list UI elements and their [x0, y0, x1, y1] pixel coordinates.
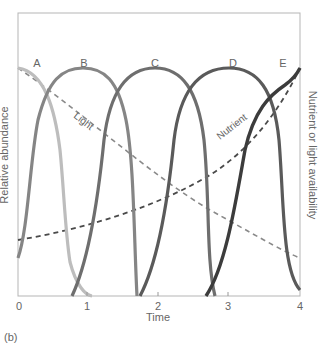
- label-d: D: [229, 57, 237, 69]
- y-axis-title-right: Nutrient or light availability: [307, 91, 319, 220]
- label-b: B: [80, 57, 87, 69]
- label-e: E: [279, 57, 286, 69]
- x-tick-label-1: 1: [84, 300, 90, 312]
- x-tick-label-3: 3: [225, 300, 231, 312]
- x-tick-label-0: 0: [16, 300, 22, 312]
- succession-chart: A B C D E Light Nutrient 0 1 2 3 4 Time …: [0, 0, 319, 344]
- y-axis-title-left: Relative abundance: [0, 106, 10, 203]
- x-axis-title: Time: [146, 311, 170, 323]
- x-tick-label-4: 4: [297, 300, 303, 312]
- label-c: C: [151, 57, 159, 69]
- panel-label: (b): [4, 331, 17, 343]
- label-a: A: [33, 57, 41, 69]
